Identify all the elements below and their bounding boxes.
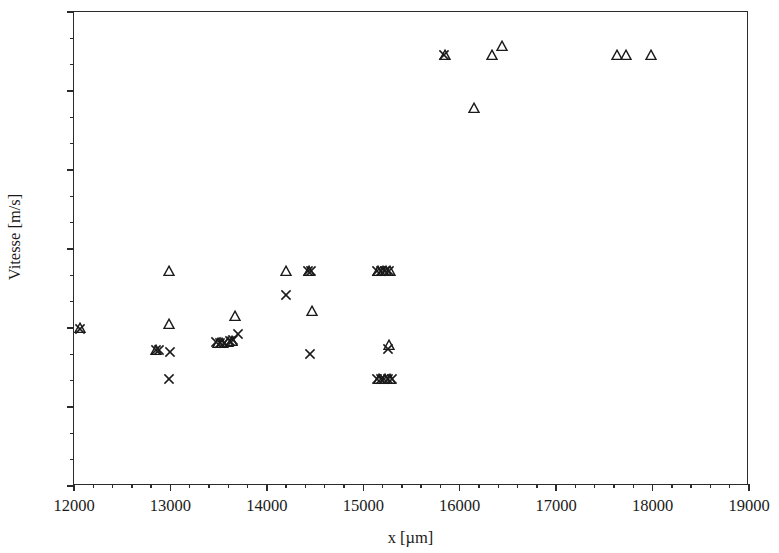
y-axis-title-text: Vitesse [m/s]	[5, 194, 25, 281]
x-tick-minor	[710, 484, 711, 488]
x-tick-minor	[247, 484, 248, 488]
x-tick-minor	[575, 484, 576, 488]
x-tick-major	[748, 484, 749, 491]
x-tick-minor	[305, 484, 306, 488]
x-tick-minor	[189, 484, 190, 488]
x-tick-minor	[208, 484, 209, 488]
x-tick-minor	[401, 484, 402, 488]
x-tick-minor	[93, 484, 94, 488]
x-axis-title: x [µm]	[73, 528, 748, 548]
x-tick-minor	[420, 484, 421, 488]
x-tick-minor	[228, 484, 229, 488]
x-tick-major	[170, 484, 171, 491]
x-tick-minor	[536, 484, 537, 488]
x-tick-major	[266, 484, 267, 491]
x-tick-minor	[324, 484, 325, 488]
x-axis-title-text: x [µm]	[388, 528, 434, 547]
x-tick-minor	[478, 484, 479, 488]
x-tick-minor	[131, 484, 132, 488]
y-tick-major	[67, 90, 74, 91]
y-tick-major	[67, 11, 74, 12]
x-tick-major	[555, 484, 556, 491]
x-tick-minor	[343, 484, 344, 488]
y-tick-major	[67, 169, 74, 170]
scatter-chart-figure: Vitesse [m/s] 0.000.010.020.030.040.050.…	[0, 0, 779, 553]
y-axis-title: Vitesse [m/s]	[4, 0, 26, 474]
x-tick-minor	[613, 484, 614, 488]
data-points-layer	[74, 12, 747, 484]
x-tick-major	[73, 484, 74, 491]
x-tick-minor	[285, 484, 286, 488]
x-tick-minor	[594, 484, 595, 488]
x-tick-label: 19000	[689, 498, 779, 515]
x-tick-minor	[498, 484, 499, 488]
x-tick-minor	[112, 484, 113, 488]
x-tick-minor	[150, 484, 151, 488]
x-tick-minor	[671, 484, 672, 488]
x-tick-minor	[440, 484, 441, 488]
y-tick-major	[67, 406, 74, 407]
x-tick-major	[459, 484, 460, 491]
x-tick-major	[363, 484, 364, 491]
x-tick-minor	[633, 484, 634, 488]
x-tick-minor	[517, 484, 518, 488]
x-tick-minor	[729, 484, 730, 488]
plot-area: 0.000.010.020.030.040.050.06 12000130001…	[73, 11, 748, 485]
x-tick-major	[652, 484, 653, 491]
y-tick-major	[67, 248, 74, 249]
x-tick-minor	[382, 484, 383, 488]
x-tick-minor	[690, 484, 691, 488]
